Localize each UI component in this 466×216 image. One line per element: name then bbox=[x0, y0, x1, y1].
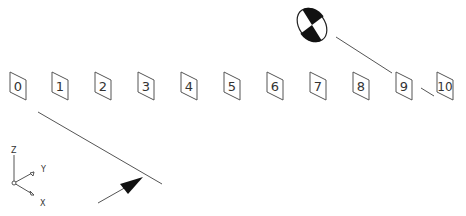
x-axis-label: X bbox=[40, 199, 46, 208]
box-label: 6 bbox=[271, 79, 279, 94]
box-label: 1 bbox=[56, 79, 64, 94]
box-label: 0 bbox=[14, 79, 22, 94]
numbered-box-row: 012345678910 bbox=[10, 72, 453, 100]
box-label: 8 bbox=[357, 79, 365, 94]
cad-drawing-canvas: 012345678910 Z Y X bbox=[0, 0, 466, 216]
leader-line-top bbox=[336, 37, 392, 73]
numbered-box: 5 bbox=[224, 72, 240, 100]
numbered-box: 8 bbox=[353, 72, 369, 100]
box-label: 4 bbox=[185, 79, 193, 94]
box-label: 9 bbox=[400, 79, 408, 94]
box-label: 10 bbox=[437, 80, 452, 94]
box-label: 7 bbox=[314, 79, 322, 94]
numbered-box: 0 bbox=[10, 72, 26, 100]
numbered-box: 1 bbox=[52, 72, 68, 100]
arrow-icon bbox=[98, 177, 143, 203]
y-axis-label: Y bbox=[40, 165, 46, 174]
numbered-box: 6 bbox=[267, 72, 283, 100]
numbered-box: 10 bbox=[437, 72, 453, 100]
leader-line-9-10 bbox=[421, 88, 434, 96]
ucs-axis-icon bbox=[12, 155, 34, 195]
box-label: 2 bbox=[99, 79, 107, 94]
box-label: 5 bbox=[228, 79, 236, 94]
diagonal-line bbox=[38, 112, 162, 184]
box-label: 3 bbox=[142, 79, 150, 94]
numbered-box: 9 bbox=[396, 72, 412, 100]
target-marker-icon bbox=[291, 3, 333, 47]
numbered-box: 7 bbox=[310, 72, 326, 100]
numbered-box: 4 bbox=[181, 72, 197, 100]
z-axis-label: Z bbox=[11, 146, 17, 155]
numbered-box: 3 bbox=[138, 72, 154, 100]
numbered-box: 2 bbox=[95, 72, 111, 100]
